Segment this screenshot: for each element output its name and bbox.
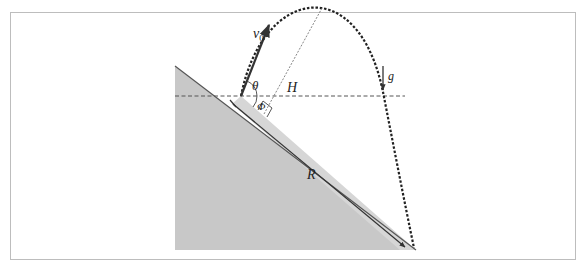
phi-label: Φ (257, 100, 266, 112)
gravity-label: g (388, 69, 394, 83)
range-label: R (306, 167, 316, 182)
projectile-incline-diagram: v0 θ Φ H g R (0, 0, 584, 271)
v0-label: v0 (253, 26, 264, 43)
theta-label: θ (252, 78, 259, 93)
max-height-perpendicular (264, 8, 322, 114)
max-height-label: H (286, 80, 298, 95)
